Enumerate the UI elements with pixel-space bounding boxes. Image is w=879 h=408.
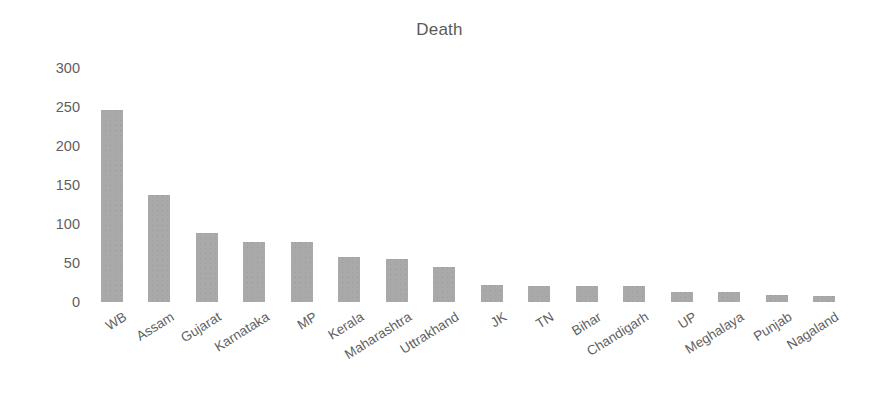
bar-rect: [623, 286, 645, 302]
bar-rect: [291, 242, 313, 302]
x-axis-tick-label: JK: [488, 310, 509, 330]
y-axis-tick-label: 200: [56, 139, 80, 154]
bar-rect: [101, 110, 123, 302]
bar-chandigarh: [611, 286, 659, 302]
bar-rect: [671, 292, 693, 302]
x-axis-tick-label: WB: [103, 310, 129, 333]
bar-rect: [196, 233, 218, 302]
bar-punjab: [753, 295, 801, 302]
bar-rect: [528, 286, 550, 302]
bar-karnataka: [231, 242, 279, 302]
y-axis-tick-label: 0: [72, 295, 80, 310]
y-axis-tick-label: 50: [64, 256, 80, 271]
bar-rect: [148, 195, 170, 302]
y-axis-tick-label: 100: [56, 217, 80, 232]
x-axis-tick-label: TN: [534, 310, 556, 331]
bar-rect: [338, 257, 360, 302]
x-axis-tick-label: Assam: [134, 310, 176, 343]
bar-rect: [386, 259, 408, 302]
bar-gujarat: [183, 233, 231, 302]
x-axis-tick-label: Nagaland: [785, 310, 841, 352]
bar-wb: [88, 110, 136, 302]
bar-tn: [516, 286, 564, 302]
bar-uttrakhand: [421, 267, 469, 302]
bar-maharashtra: [373, 259, 421, 302]
bar-jk: [468, 285, 516, 302]
x-axis-tick-label: UP: [676, 310, 699, 331]
bar-kerala: [326, 257, 374, 302]
bar-bihar: [563, 286, 611, 302]
bar-rect: [243, 242, 265, 302]
y-axis: 300250200150100500: [38, 68, 80, 302]
x-axis-tick-label: MP: [295, 310, 319, 332]
bar-rect: [718, 292, 740, 302]
bar-rect: [766, 295, 788, 302]
y-axis-tick-label: 250: [56, 100, 80, 115]
x-axis: WBAssamGujaratKarnatakaMPKeralaMaharasht…: [88, 304, 848, 404]
plot-area: [88, 68, 848, 302]
bar-meghalaya: [706, 292, 754, 302]
y-axis-tick-label: 300: [56, 61, 80, 76]
bar-up: [658, 292, 706, 302]
bar-rect: [576, 286, 598, 302]
x-axis-tick-label: Bihar: [570, 310, 604, 338]
bar-assam: [136, 195, 184, 302]
bar-rect: [813, 296, 835, 302]
y-axis-tick-label: 150: [56, 178, 80, 193]
bar-nagaland: [801, 296, 849, 302]
chart-title: Death: [0, 20, 879, 40]
bar-mp: [278, 242, 326, 302]
bar-rect: [481, 285, 503, 302]
bar-chart: Death 300250200150100500 WBAssamGujaratK…: [0, 0, 879, 408]
bar-rect: [433, 267, 455, 302]
